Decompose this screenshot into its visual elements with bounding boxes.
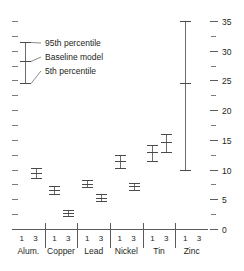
data-marker-group (31, 22, 191, 217)
x-axis-group-label: Copper (47, 246, 75, 256)
data-marker (82, 181, 93, 188)
data-marker (147, 146, 158, 162)
chart-canvas: 05101520253035 131313131313 Alum.CopperL… (0, 0, 244, 271)
legend-leader-lines (31, 43, 41, 84)
data-marker (63, 211, 74, 217)
legend-label: 95th percentile (45, 38, 101, 48)
y-axis-tick-label: 20 (222, 106, 232, 116)
y-axis-tick-label: 15 (222, 136, 232, 146)
x-axis-sub-label: 1 (150, 234, 155, 243)
legend-label: 5th percentile (45, 66, 96, 76)
legend-label-group: 95th percentileBaseline model5th percent… (45, 38, 103, 76)
x-axis-group-labels: Alum.CopperLeadNickelTinZinc (17, 246, 200, 256)
y-axis-tick-label: 30 (222, 47, 232, 57)
data-marker (31, 169, 42, 179)
x-axis-sub-label: 1 (52, 234, 57, 243)
x-axis-group-label: Lead (84, 246, 103, 256)
data-marker (96, 195, 107, 202)
left-minor-tick-group (12, 22, 18, 215)
legend-leader-baseline (31, 57, 41, 62)
x-axis-group-label: Tin (153, 246, 165, 256)
x-axis-sub-label: 3 (131, 234, 136, 243)
x-axis-group-label: Nickel (115, 246, 138, 256)
data-marker (49, 187, 60, 195)
x-axis-group-label: Zinc (184, 246, 201, 256)
x-axis-sub-label: 3 (99, 234, 104, 243)
y-axis-tick-label: 0 (222, 225, 227, 235)
data-marker (180, 22, 191, 171)
data-marker (115, 156, 126, 169)
y-axis-tick-label: 25 (222, 76, 232, 86)
data-marker (129, 184, 140, 191)
y-axis-tick-labels: 05101520253035 (222, 17, 232, 235)
data-marker (161, 135, 172, 153)
x-axis-sub-label: 1 (118, 234, 123, 243)
right-minor-tick-group (211, 37, 216, 215)
range-plot-chart: 05101520253035 131313131313 Alum.CopperL… (0, 0, 244, 271)
y-axis-tick-label: 10 (222, 166, 232, 176)
legend-sample-marker (20, 43, 31, 84)
x-axis-sub-label: 3 (66, 234, 71, 243)
x-axis-sub-label: 1 (183, 234, 188, 243)
legend-label: Baseline model (45, 52, 103, 62)
y-axis-tick-label: 5 (222, 195, 227, 205)
legend-leader-p5 (31, 71, 41, 84)
x-axis-sub-label: 1 (85, 234, 90, 243)
y-axis-tick-label: 35 (222, 17, 232, 27)
x-axis-sub-label: 3 (164, 234, 169, 243)
x-axis-sub-label: 1 (20, 234, 25, 243)
x-axis-group-label: Alum. (17, 246, 39, 256)
x-axis-sub-label: 3 (197, 234, 202, 243)
legend-leader-p95 (31, 43, 41, 44)
x-axis-sub-label: 3 (33, 234, 38, 243)
